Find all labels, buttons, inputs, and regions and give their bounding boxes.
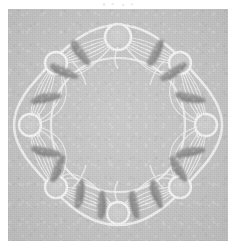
- graph-node: [105, 24, 131, 50]
- graph-node: [169, 176, 191, 198]
- figure-root: [0, 0, 236, 251]
- outer-envelope: [14, 25, 222, 225]
- graph-node: [195, 114, 217, 136]
- graph-node: [107, 202, 129, 224]
- graph-node: [45, 176, 67, 198]
- figure-plate: [8, 9, 228, 241]
- graph-node: [19, 114, 41, 136]
- scanner-artifact-marks: [100, 2, 140, 7]
- network-diagram: [8, 9, 228, 241]
- graph-nodes: [19, 24, 217, 224]
